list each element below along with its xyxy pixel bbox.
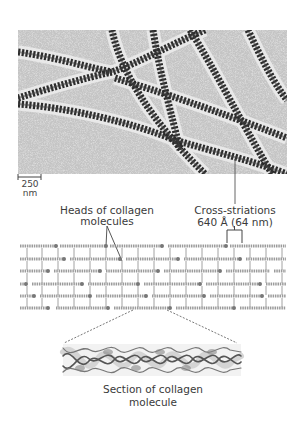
heads-label-line2: molecules bbox=[55, 215, 159, 227]
section-label-line2: molecule bbox=[100, 396, 206, 408]
zoom-dashed-lines bbox=[64, 310, 237, 343]
period-label: 640 Å (64 nm) bbox=[185, 216, 285, 228]
collagen-helix-section bbox=[63, 344, 241, 376]
section-label: Section of collagen bbox=[100, 383, 206, 395]
period-bracket bbox=[227, 226, 242, 243]
collagen-array-schematic bbox=[20, 244, 286, 310]
scale-bar-unit: nm bbox=[18, 189, 42, 198]
cross-striations-label: Cross-striations bbox=[185, 204, 285, 216]
heads-leader-lines bbox=[106, 226, 122, 261]
